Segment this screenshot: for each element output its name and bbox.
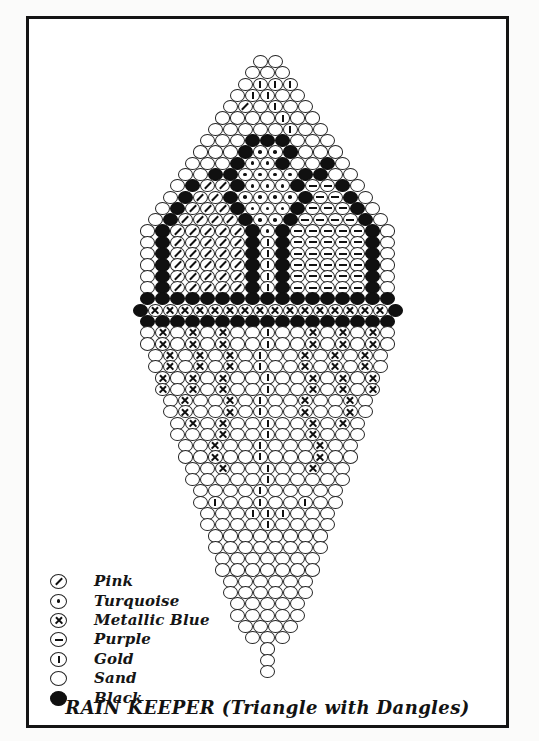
bead-row: [29, 55, 506, 66]
bead-row: [29, 66, 506, 77]
bead-row: [29, 281, 506, 292]
legend-label: Turquoise: [94, 594, 179, 609]
bead-row: [29, 405, 506, 416]
circle-x-cross-icon: [50, 613, 67, 628]
bead-row: [29, 496, 506, 507]
legend-item-turquoise: Turquoise: [50, 591, 210, 610]
bead-row: [29, 258, 506, 269]
legend-item-metallic-blue: Metallic Blue: [50, 611, 210, 630]
circle-vertical-bar-icon: [50, 652, 67, 667]
bead-row: [29, 236, 506, 247]
bead-row: [29, 157, 506, 168]
bead-row: [29, 145, 506, 156]
legend-item-sand: Sand: [50, 669, 210, 688]
bead-row: [29, 270, 506, 281]
bead-row: [29, 552, 506, 563]
bead-row: [29, 518, 506, 529]
bead-row: [29, 383, 506, 394]
bead-row: [29, 89, 506, 100]
bead-row: [29, 134, 506, 145]
legend-item-purple: Purple: [50, 630, 210, 649]
legend-label: Pink: [94, 574, 133, 589]
bead-row: [29, 360, 506, 371]
bead-row: [29, 337, 506, 348]
circle-center-dot-icon: [50, 594, 67, 609]
bead-row: [29, 315, 506, 326]
legend: PinkTurquoiseMetallic BluePurpleGoldSand…: [50, 572, 210, 708]
bead-row: [29, 111, 506, 122]
bead-row: [29, 507, 506, 518]
pattern-title: RAIN KEEPER (Triangle with Dangles): [29, 697, 506, 718]
bead-row: [29, 202, 506, 213]
bead-sand: [260, 665, 275, 678]
circle-horizontal-bar-icon: [50, 632, 67, 647]
bead-row: [29, 179, 506, 190]
bead-row: [29, 191, 506, 202]
bead-row: [29, 529, 506, 540]
border-frame: PinkTurquoiseMetallic BluePurpleGoldSand…: [26, 16, 509, 728]
bead-row: [29, 326, 506, 337]
legend-label: Purple: [94, 632, 151, 647]
legend-item-pink: Pink: [50, 572, 210, 591]
bead-row: [29, 371, 506, 382]
bead-row: [29, 450, 506, 461]
legend-label: Metallic Blue: [94, 613, 210, 628]
legend-label: Sand: [94, 671, 137, 686]
bead-row: [29, 417, 506, 428]
bead-row: [29, 224, 506, 235]
legend-label: Gold: [94, 652, 134, 667]
bead-row: [29, 473, 506, 484]
circle-empty-icon: [50, 671, 67, 686]
bead-row: [29, 541, 506, 552]
bead-row: [29, 247, 506, 258]
bead-row: [29, 292, 506, 303]
bead-row: [29, 78, 506, 89]
legend-item-gold: Gold: [50, 650, 210, 669]
circle-diagonal-slash-icon: [50, 574, 67, 589]
bead-row: [29, 304, 506, 315]
bead-row: [29, 462, 506, 473]
bead-row: [29, 428, 506, 439]
